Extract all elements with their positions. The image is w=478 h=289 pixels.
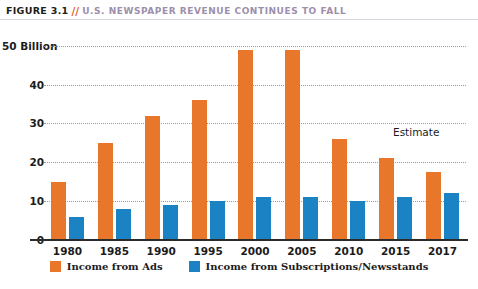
bar-2010-subs <box>350 201 365 240</box>
estimate-annotation: Estimate <box>393 126 439 138</box>
bar-group-2015 <box>372 158 419 240</box>
bar-2010-ads <box>332 139 347 240</box>
bar-group-2010 <box>325 139 372 240</box>
bar-2005-ads <box>285 50 300 240</box>
chart-plot-area <box>44 38 466 240</box>
chart-legend: Income from AdsIncome from Subscriptions… <box>0 261 478 272</box>
bar-2000-subs <box>256 197 271 240</box>
bar-1985-ads <box>98 143 113 240</box>
x-tick-2015: 2015 <box>381 245 410 257</box>
figure-separator: // <box>71 5 79 17</box>
bar-2017-ads <box>426 172 441 240</box>
legend-item-ads[interactable]: Income from Ads <box>50 261 163 272</box>
y-tick-20: 20 <box>4 156 44 168</box>
gridline-50 <box>44 46 466 47</box>
bar-group-1995 <box>185 100 232 240</box>
x-tick-1990: 1990 <box>147 245 176 257</box>
y-axis-labels: 010203040 <box>0 38 44 240</box>
bar-2005-subs <box>303 197 318 240</box>
legend-swatch-icon <box>50 261 61 272</box>
x-tick-2000: 2000 <box>240 245 269 257</box>
title-divider <box>0 19 478 20</box>
bar-1990-subs <box>163 205 178 240</box>
figure-number: FIGURE 3.1 <box>6 5 68 16</box>
x-tick-1995: 1995 <box>193 245 222 257</box>
y-tick-40: 40 <box>4 79 44 91</box>
x-tick-1985: 1985 <box>100 245 129 257</box>
bar-1980-ads <box>51 182 66 240</box>
bar-2015-subs <box>397 197 412 240</box>
source-note <box>0 283 478 289</box>
bar-1995-ads <box>192 100 207 240</box>
x-tick-1980: 1980 <box>53 245 82 257</box>
legend-label: Income from Ads <box>67 261 163 272</box>
legend-label: Income from Subscriptions/Newsstands <box>206 261 429 272</box>
bar-group-2000 <box>232 50 279 240</box>
bar-group-1985 <box>91 143 138 240</box>
y-tick-30: 30 <box>4 117 44 129</box>
legend-item-subs[interactable]: Income from Subscriptions/Newsstands <box>189 261 429 272</box>
bar-1995-subs <box>210 201 225 240</box>
bar-1990-ads <box>145 116 160 240</box>
y-tick-10: 10 <box>4 195 44 207</box>
x-tick-2010: 2010 <box>334 245 363 257</box>
bar-2017-subs <box>444 193 459 240</box>
bar-2000-ads <box>238 50 253 240</box>
bar-group-2017 <box>419 172 466 240</box>
x-tick-2017: 2017 <box>428 245 457 257</box>
bar-1980-subs <box>69 217 84 240</box>
x-tick-2005: 2005 <box>287 245 316 257</box>
x-axis-line <box>30 239 468 241</box>
bar-group-2005 <box>278 50 325 240</box>
figure-header: FIGURE 3.1 // U.S. NEWSPAPER REVENUE CON… <box>6 2 472 19</box>
bar-group-1990 <box>138 116 185 240</box>
bar-2015-ads <box>379 158 394 240</box>
legend-swatch-icon <box>189 261 200 272</box>
bar-group-1980 <box>44 182 91 240</box>
figure-title: U.S. NEWSPAPER REVENUE CONTINUES TO FALL <box>82 6 346 16</box>
bar-1985-subs <box>116 209 131 240</box>
